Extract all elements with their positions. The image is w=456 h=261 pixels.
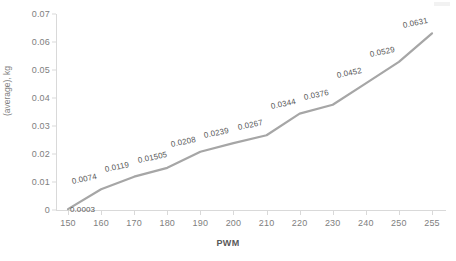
data-point-label: 0.0376: [303, 88, 329, 102]
x-tick-label: 210: [259, 218, 275, 228]
x-tick-label: 200: [226, 218, 242, 228]
x-tick-label: 250: [391, 218, 407, 228]
y-tick-label: 0: [45, 205, 50, 215]
x-axis-title: PWM: [0, 238, 456, 248]
data-point-label: 0.0344: [270, 97, 296, 111]
y-axis-title: (average), kg: [2, 46, 12, 136]
y-tick-label: 0.06: [32, 37, 50, 47]
x-tick-label: 180: [159, 218, 175, 228]
data-point-label: 0.0529: [369, 45, 395, 59]
data-point-label: 0.0239: [204, 126, 230, 140]
y-tick-label: 0.02: [32, 149, 50, 159]
x-tick-label: 240: [358, 218, 374, 228]
y-tick-label: 0.04: [32, 93, 50, 103]
y-tick-label: 0.01: [32, 177, 50, 187]
y-tick-label: 0.05: [32, 65, 50, 75]
x-tick-label: 150: [60, 218, 76, 228]
x-tick-label: 170: [126, 218, 142, 228]
x-tick-mark: [101, 210, 102, 215]
x-tick-mark: [167, 210, 168, 215]
data-point-label: 0.0631: [402, 16, 428, 30]
x-tick-mark: [200, 210, 201, 215]
y-axis-line: [56, 14, 57, 210]
x-tick-label: 220: [292, 218, 308, 228]
data-point-label: 0.0074: [71, 172, 97, 186]
y-tick-label: 0.07: [32, 9, 50, 19]
x-tick-mark: [267, 210, 268, 215]
data-point-label: 0.0208: [170, 135, 196, 149]
data-point-label: 0.01505: [137, 150, 168, 165]
chart-container: 00.010.020.030.040.050.060.07 1501601701…: [0, 0, 456, 261]
x-axis-ticks: 150160170180190200210220230240250255: [56, 210, 446, 240]
data-point-label: 0.0119: [104, 160, 130, 174]
x-tick-mark: [68, 210, 69, 215]
x-tick-mark: [432, 210, 433, 215]
x-tick-mark: [333, 210, 334, 215]
x-tick-label: 190: [193, 218, 209, 228]
data-point-label: 0.0003: [70, 205, 95, 214]
x-tick-mark: [233, 210, 234, 215]
corner-artifact: [434, 2, 450, 6]
y-tick-label: 0.03: [32, 121, 50, 131]
x-tick-mark: [300, 210, 301, 215]
x-tick-label: 160: [93, 218, 109, 228]
x-tick-label: 255: [424, 218, 440, 228]
data-point-label: 0.0267: [237, 118, 263, 132]
x-tick-mark: [399, 210, 400, 215]
data-point-label: 0.0452: [336, 66, 362, 80]
x-tick-mark: [366, 210, 367, 215]
x-tick-mark: [134, 210, 135, 215]
x-tick-label: 230: [325, 218, 341, 228]
